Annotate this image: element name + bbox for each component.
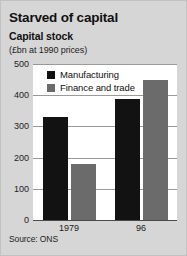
chart-title: Starved of capital: [9, 10, 118, 25]
x-axis-tick-label: 96: [136, 223, 146, 233]
bar-manufacturing-96: [115, 99, 140, 220]
legend-label: Manufacturing: [60, 69, 119, 80]
bar-manufacturing-1979: [43, 117, 68, 220]
legend-swatch-icon: [47, 84, 55, 92]
chart-units-note: (£bn at 1990 prices): [9, 45, 87, 55]
y-axis-tick-label: 200: [0, 153, 29, 163]
source-note: Source: ONS: [9, 234, 58, 244]
legend-label: Finance and trade: [60, 82, 135, 93]
gridline-0: 0: [33, 220, 177, 221]
y-axis-tick-label: 400: [0, 90, 29, 100]
legend-item: Finance and trade: [47, 82, 135, 93]
legend-swatch-icon: [47, 71, 55, 79]
y-axis-tick-label: 100: [0, 184, 29, 194]
y-axis-tick-label: 300: [0, 121, 29, 131]
gridline-500: 500: [33, 64, 177, 65]
x-axis-tick-label: 1979: [59, 223, 79, 233]
plot-area: 0100200300400500 197996 ManufacturingFin…: [33, 64, 177, 220]
legend-item: Manufacturing: [47, 69, 135, 80]
y-axis-tick-label: 0: [0, 215, 29, 225]
chart-legend: ManufacturingFinance and trade: [47, 69, 135, 93]
bar-finance-96: [143, 80, 168, 220]
bar-finance-1979: [71, 164, 96, 220]
chart-figure: Starved of capital Capital stock (£bn at…: [0, 0, 187, 256]
chart-subtitle: Capital stock: [9, 30, 73, 42]
y-axis-tick-label: 500: [0, 59, 29, 69]
